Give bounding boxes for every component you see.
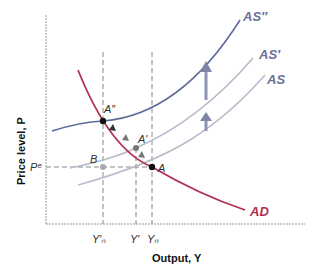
x-axis-title: Output, Y bbox=[152, 252, 202, 264]
label-as: AS bbox=[266, 72, 285, 87]
y-axis-title: Price level, P bbox=[15, 117, 27, 185]
point-a-double-prime bbox=[100, 118, 106, 124]
tick-y-n: Yₙ bbox=[147, 233, 159, 245]
shift-arrow-large bbox=[200, 61, 212, 100]
label-a-prime: A′ bbox=[137, 133, 148, 145]
shift-arrow-small bbox=[200, 112, 212, 131]
point-a bbox=[149, 164, 155, 170]
tick-y-prime: Y′ bbox=[130, 233, 140, 245]
label-as-prime: AS′ bbox=[258, 47, 281, 62]
as-ad-diagram: A A′ A″ B AS″ AS′ AS AD Pᵉ Y′ₙ Y′ Yₙ Out… bbox=[0, 0, 312, 271]
label-b: B bbox=[90, 153, 97, 165]
label-a: A bbox=[157, 162, 165, 174]
label-ad: AD bbox=[249, 204, 269, 219]
point-b bbox=[100, 164, 106, 170]
label-a-double-prime: A″ bbox=[103, 103, 116, 115]
tick-y-prime-n: Y′ₙ bbox=[92, 233, 106, 245]
label-as-double-prime: AS″ bbox=[242, 9, 268, 24]
point-a-prime bbox=[133, 145, 139, 151]
tick-pe: Pᵉ bbox=[30, 161, 42, 173]
